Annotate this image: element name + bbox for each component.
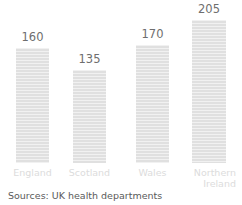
bar-value-england: 160 — [22, 32, 44, 44]
bar-group-northern-ireland: 205 — [192, 20, 226, 163]
category-label-england: England — [4, 167, 61, 178]
category-label-northern-ireland: Northern Ireland — [181, 167, 236, 189]
source-note: Sources: UK health departments — [8, 190, 162, 202]
bar-england — [16, 48, 49, 163]
bar-group-wales: 170 — [136, 45, 169, 163]
bar-northern-ireland — [192, 20, 226, 163]
bar-value-wales: 170 — [142, 29, 164, 41]
category-label-scotland: Scotland — [61, 167, 118, 178]
bar-chart: 160 135 170 205 England Scotland Wales N… — [0, 0, 242, 205]
bar-wales — [136, 45, 169, 163]
bar-scotland — [73, 70, 106, 163]
bar-group-scotland: 135 — [73, 70, 106, 163]
bar-value-northern-ireland: 205 — [198, 4, 220, 16]
plot-area: 160 135 170 205 — [0, 0, 242, 163]
bar-value-scotland: 135 — [79, 54, 101, 66]
bar-group-england: 160 — [16, 48, 49, 163]
category-label-wales: Wales — [124, 167, 181, 178]
